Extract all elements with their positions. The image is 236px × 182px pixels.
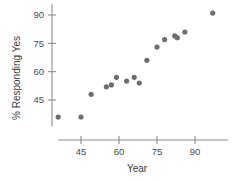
y-tick-label: 60 — [33, 66, 44, 77]
x-tick-label: 75 — [152, 146, 163, 157]
data-point-marker — [162, 37, 167, 42]
data-point-marker — [109, 82, 114, 87]
y-axis-title: % Responding Yes — [11, 36, 22, 120]
data-point-marker — [144, 58, 149, 63]
data-point-marker — [210, 11, 215, 16]
y-axis-group: 45607590 — [33, 4, 56, 127]
scatter-plot-figure: 45607590 45607590 % Responding Yes Year — [0, 0, 236, 182]
y-tick-label: 75 — [33, 38, 44, 49]
data-point-marker — [132, 75, 137, 80]
data-point-marker — [175, 35, 180, 40]
data-point-marker — [104, 84, 109, 89]
data-point-marker — [114, 75, 119, 80]
data-point-marker — [89, 92, 94, 97]
data-point-marker — [78, 114, 83, 119]
y-tick-label: 90 — [33, 9, 44, 20]
data-point-marker — [182, 29, 187, 34]
x-tick-label: 60 — [114, 146, 125, 157]
data-point-marker — [124, 79, 129, 84]
x-axis-group: 45607590 — [58, 136, 228, 157]
x-axis-title: Year — [127, 163, 148, 174]
data-point-marker — [154, 45, 159, 50]
x-tick-label: 45 — [76, 146, 87, 157]
data-point-marker — [56, 114, 61, 119]
y-tick-label: 45 — [33, 94, 44, 105]
data-point-marker — [137, 80, 142, 85]
data-points-group — [56, 11, 216, 120]
plot-canvas: 45607590 45607590 % Responding Yes Year — [0, 0, 236, 182]
x-tick-label: 90 — [190, 146, 201, 157]
